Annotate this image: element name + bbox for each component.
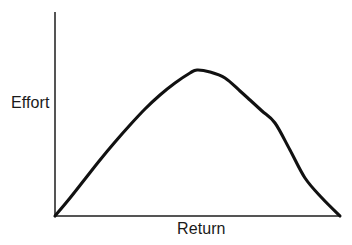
- axes-group: [55, 12, 340, 216]
- y-axis-label: Effort: [11, 95, 50, 111]
- data-series-group: [55, 70, 340, 216]
- effort-return-plot: [0, 0, 352, 245]
- effort-return-curve: [55, 70, 340, 216]
- x-axis-label: Return: [177, 221, 226, 237]
- chart-figure: Effort Return: [0, 0, 352, 245]
